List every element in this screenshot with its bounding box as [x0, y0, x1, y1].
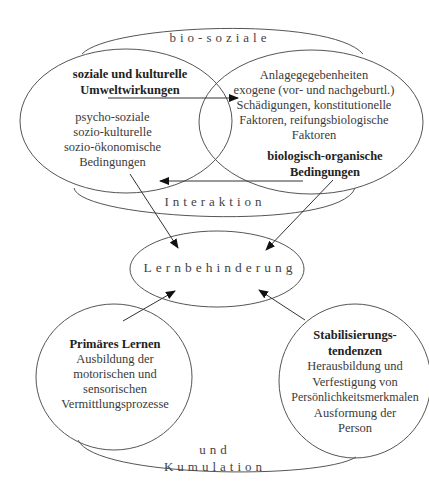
- biological-line: Anlagegegebenheiten: [226, 68, 402, 83]
- social-line: Bedingungen: [50, 155, 175, 170]
- stabilisierung-title-1: Stabilisierungs-: [272, 328, 429, 344]
- social-line: sozio-ökonomische: [50, 140, 175, 155]
- biological-title: biologisch-organische Bedingungen: [250, 148, 400, 180]
- biological-line: Faktoren: [226, 128, 402, 143]
- biological-lines: Anlagegegebenheiten exogene (vor- und na…: [226, 68, 402, 143]
- stabilisierung-title-2: tendenzen: [272, 344, 429, 360]
- social-box: soziale und kulturelle Umweltwirkungen: [50, 66, 210, 98]
- stabilisierung-line: Ausformung der: [272, 406, 429, 422]
- biological-line: Schädigungen, konstitutionelle: [226, 98, 402, 113]
- stabilisierung-box: Stabilisierungs- tendenzen Herausbildung…: [272, 328, 429, 437]
- social-line: sozio-kulturelle: [50, 125, 175, 140]
- biological-title-1: biologisch-organische: [250, 148, 400, 164]
- biological-line: exogene (vor- und nachgeburtl.): [226, 83, 402, 98]
- social-title-1: soziale und kulturelle: [50, 66, 210, 82]
- lernbehinderung-label: Lernbehinderung: [140, 260, 300, 276]
- kumulation-label: Kumulation: [150, 459, 280, 475]
- stabilisierung-line: Person: [272, 421, 429, 437]
- primaeres-lernen-box: Primäres Lernen Ausbildung der motorisch…: [52, 337, 178, 412]
- social-title-2: Umweltwirkungen: [50, 82, 210, 98]
- interaktion-label: Interaktion: [150, 194, 280, 210]
- stabilisierung-line: Persönlichkeitsmerkmalen: [272, 390, 429, 406]
- primaeres-lernen-line: Ausbildung der: [52, 352, 178, 367]
- und-label: und: [180, 442, 250, 458]
- social-lines: psycho-soziale sozio-kulturelle sozio-ök…: [50, 110, 175, 170]
- primaeres-lernen-title: Primäres Lernen: [52, 337, 178, 352]
- stabilisierung-line: Verfestigung von: [272, 375, 429, 391]
- biological-line: Faktoren, reifungsbiologische: [226, 113, 402, 128]
- bio-soziale-label: bio-soziale: [160, 30, 280, 46]
- primaeres-lernen-line: sensorischen: [52, 382, 178, 397]
- primaeres-lernen-line: motorischen und: [52, 367, 178, 382]
- biological-title-2: Bedingungen: [250, 164, 400, 180]
- primaeres-lernen-line: Vermittlungsprozesse: [52, 397, 178, 412]
- stabilisierung-line: Herausbildung und: [272, 359, 429, 375]
- social-line: psycho-soziale: [50, 110, 175, 125]
